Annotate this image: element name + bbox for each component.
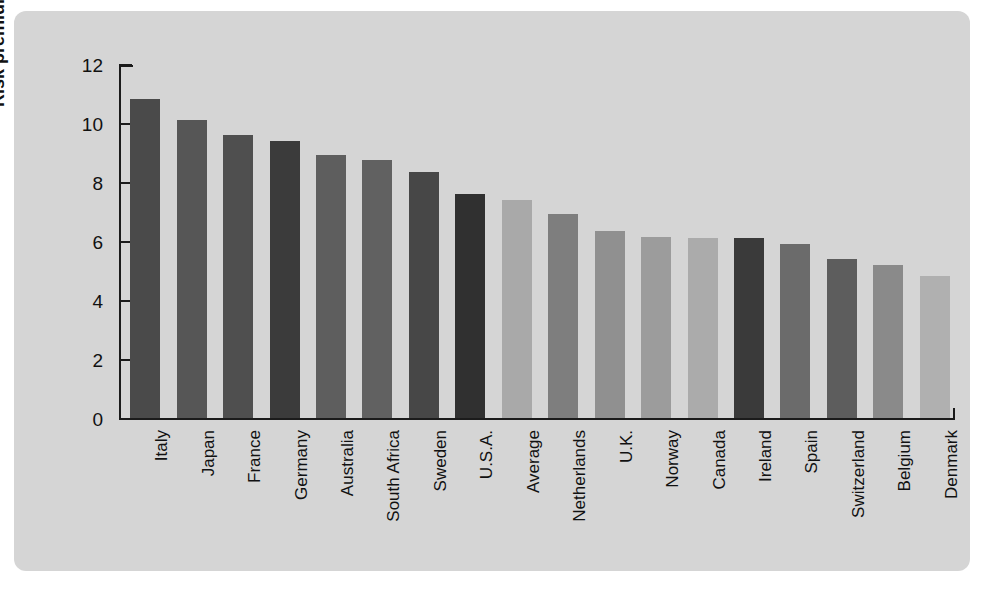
bar [920,276,950,418]
bar [409,172,439,418]
bar [316,155,346,418]
x-tick-label: Switzerland [849,430,869,518]
bar [688,238,718,418]
x-tick-label: Italy [152,430,172,461]
bar [641,237,671,418]
y-tick-label: 6 [63,233,103,252]
y-axis-label: Risk premium (%) [0,0,9,107]
x-tick-label: France [245,430,265,483]
x-tick-label: Norway [663,430,683,488]
y-tick-label: 10 [63,115,103,134]
bar [270,141,300,418]
x-tick-label: Sweden [431,430,451,491]
axis-right-stub [953,408,955,420]
bar [734,238,764,418]
x-tick-label: Australia [338,430,358,496]
bar [455,194,485,418]
bar [548,214,578,418]
x-tick-label: Denmark [942,430,962,499]
plot-area: Risk premium (%) 024681012 ItalyJapanFra… [14,11,970,571]
x-tick-label: Netherlands [570,430,590,522]
x-tick-label: U.S.A. [477,430,497,479]
y-tick-0 [119,418,132,420]
bar [502,200,532,418]
bar [780,244,810,418]
x-tick-label: Belgium [895,430,915,491]
bar [223,135,253,418]
axes: 024681012 ItalyJapanFranceGermanyAustral… [119,65,955,419]
x-tick-label: Spain [802,430,822,473]
x-tick-label: U.K. [617,430,637,463]
y-tick-12 [119,64,132,66]
x-axis-line [119,418,955,420]
y-tick-label: 8 [63,174,103,193]
y-tick-label: 2 [63,351,103,370]
x-tick-label: Japan [199,430,219,476]
y-tick-label: 4 [63,292,103,311]
x-tick-label: South Africa [384,430,404,522]
x-tick-label: Germany [292,430,312,500]
chart-panel: Risk premium (%) 024681012 ItalyJapanFra… [14,11,970,571]
bar [362,160,392,418]
y-tick-label: 12 [63,56,103,75]
bar [827,259,857,418]
figure: Risk premium (%) 024681012 ItalyJapanFra… [0,0,984,592]
x-tick-label: Canada [710,430,730,490]
bar [873,265,903,418]
y-tick-label: 0 [63,410,103,429]
bar [130,99,160,418]
bar [595,231,625,418]
x-tick-label: Average [524,430,544,493]
x-tick-label: Ireland [756,430,776,482]
bar [177,120,207,418]
